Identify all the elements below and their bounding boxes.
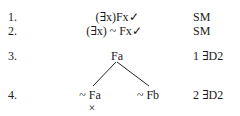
right-branch-formula: ~ Fb — [137, 89, 159, 101]
justification-4: 2 ∃D2 — [193, 89, 223, 101]
line-number-4: 4. — [8, 89, 17, 101]
left-branch-formula: ~ Fa — [79, 89, 101, 101]
closed-branch-icon: × — [89, 102, 96, 114]
